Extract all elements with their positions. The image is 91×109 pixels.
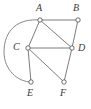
vertex-label-d: D — [78, 43, 85, 53]
vertex-a — [38, 18, 42, 22]
vertex-label-a: A — [36, 3, 42, 13]
vertex-label-e: E — [27, 88, 33, 98]
edge-c-f — [28, 48, 64, 82]
vertex-c — [26, 46, 30, 50]
edge-d-f — [64, 48, 72, 82]
vertex-label-f: F — [60, 88, 66, 98]
graph-canvas — [0, 0, 91, 109]
edge-a-d — [40, 20, 72, 48]
vertex-f — [62, 80, 66, 84]
graph-figure: A B C D E F — [0, 0, 91, 109]
vertex-label-c: C — [13, 42, 20, 52]
vertex-label-b: B — [73, 3, 79, 13]
edge-a-e-arc — [4, 20, 40, 82]
edge-a-c — [28, 20, 40, 48]
edge-c-e — [28, 48, 31, 82]
vertex-e — [29, 80, 33, 84]
vertex-d — [70, 46, 74, 50]
vertex-b — [76, 18, 80, 22]
